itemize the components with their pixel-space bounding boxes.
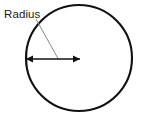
diagram-canvas: Radius: [0, 0, 144, 117]
radius-label: Radius: [4, 8, 41, 20]
radius-diagram: Radius: [0, 0, 144, 117]
